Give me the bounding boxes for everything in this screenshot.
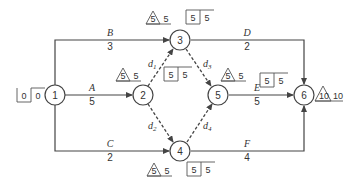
activity-E-name: E	[253, 82, 260, 93]
node-5-label: 5	[215, 90, 221, 101]
activity-C-name: C	[107, 138, 114, 149]
activity-A-duration: 5	[89, 96, 95, 107]
svg-text:5: 5	[120, 71, 125, 81]
svg-text:5: 5	[190, 13, 195, 23]
dummy-d4-label: d4	[203, 120, 212, 133]
svg-text:5: 5	[264, 76, 269, 86]
svg-text:5: 5	[182, 70, 187, 80]
network-diagram: 1 2 3 4 5 6 B 3 A 5 C 2 D 2 E 5 F 4 d1 d…	[0, 0, 356, 192]
node-4-label: 4	[177, 146, 183, 157]
activity-B-duration: 3	[107, 41, 113, 52]
svg-text:5: 5	[205, 165, 210, 175]
node-1-label: 1	[52, 90, 58, 101]
svg-text:5: 5	[225, 71, 230, 81]
svg-text:10: 10	[333, 91, 343, 101]
activity-D-name: D	[242, 27, 251, 38]
node-4-times: 5 5 5 5	[147, 162, 215, 176]
svg-text:5: 5	[151, 166, 156, 176]
node-1-times: 0 0	[17, 88, 45, 102]
svg-text:5: 5	[191, 165, 196, 175]
dummy-d2-label: d2	[148, 120, 157, 133]
svg-text:5: 5	[163, 14, 168, 24]
activity-D-duration: 2	[244, 41, 250, 52]
dummy-d4-arrow	[187, 104, 212, 142]
svg-text:10: 10	[319, 91, 329, 101]
node-3-label: 3	[177, 35, 183, 46]
dummy-d1-label: d1	[148, 58, 157, 71]
svg-text:0: 0	[35, 91, 40, 101]
svg-text:5: 5	[278, 76, 283, 86]
activity-B-name: B	[107, 27, 113, 38]
activity-C-duration: 2	[107, 152, 113, 163]
svg-text:5: 5	[204, 13, 209, 23]
activity-F-duration: 4	[244, 152, 250, 163]
svg-text:5: 5	[238, 71, 243, 81]
activity-E-duration: 5	[254, 96, 260, 107]
svg-text:5: 5	[168, 70, 173, 80]
dummy-d3-label: d3	[203, 58, 212, 71]
node-3-times: 5 5 5 5	[146, 10, 214, 24]
activity-A-name: A	[88, 82, 96, 93]
activity-F-name: F	[243, 138, 251, 149]
node-6-times: 10 10	[315, 86, 343, 101]
svg-text:5: 5	[150, 14, 155, 24]
node-2-label: 2	[140, 90, 146, 101]
svg-text:5: 5	[133, 71, 138, 81]
node-6-label: 6	[301, 90, 307, 101]
svg-text:0: 0	[21, 91, 26, 101]
svg-text:5: 5	[164, 166, 169, 176]
